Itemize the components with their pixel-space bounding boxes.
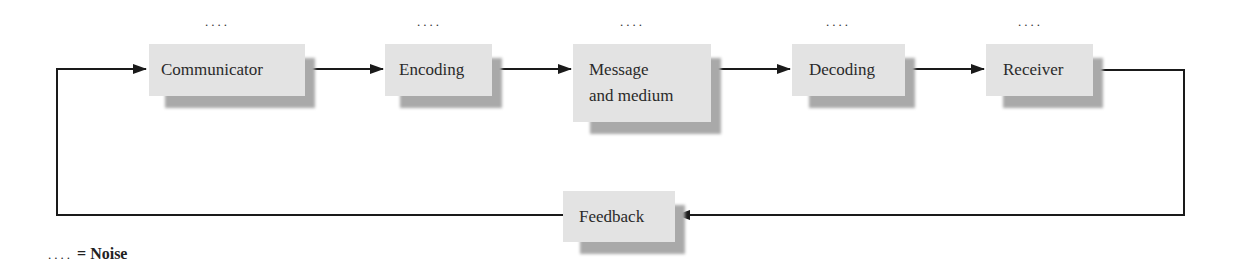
legend: .... = Noise [48, 245, 127, 263]
communication-diagram: .... .... .... .... .... Communicator En… [0, 0, 1233, 269]
receiver-to-feedback-arrow [677, 70, 1184, 215]
legend-equals: = [77, 245, 86, 262]
node-encoding: Encoding [385, 44, 492, 96]
noise-indicator-receiver: .... [1018, 14, 1043, 30]
node-label: Receiver [1003, 60, 1063, 80]
noise-indicator-communicator: .... [205, 14, 230, 30]
node-decoding: Decoding [792, 44, 905, 96]
node-label: Encoding [399, 60, 464, 80]
node-label: Communicator [161, 60, 263, 80]
node-label: Decoding [809, 60, 875, 80]
node-receiver: Receiver [986, 44, 1093, 96]
node-label-line2: and medium [589, 83, 674, 109]
noise-indicator-decoding: .... [826, 14, 851, 30]
node-label: Feedback [579, 207, 644, 227]
noise-indicator-encoding: .... [417, 14, 442, 30]
node-label-line1: Message [589, 57, 648, 83]
node-communicator: Communicator [149, 44, 305, 96]
node-message-and-medium: Message and medium [573, 44, 711, 122]
noise-indicator-message: .... [620, 14, 645, 30]
legend-dots: .... [48, 247, 73, 262]
node-feedback: Feedback [563, 191, 675, 242]
legend-label: Noise [90, 245, 127, 262]
